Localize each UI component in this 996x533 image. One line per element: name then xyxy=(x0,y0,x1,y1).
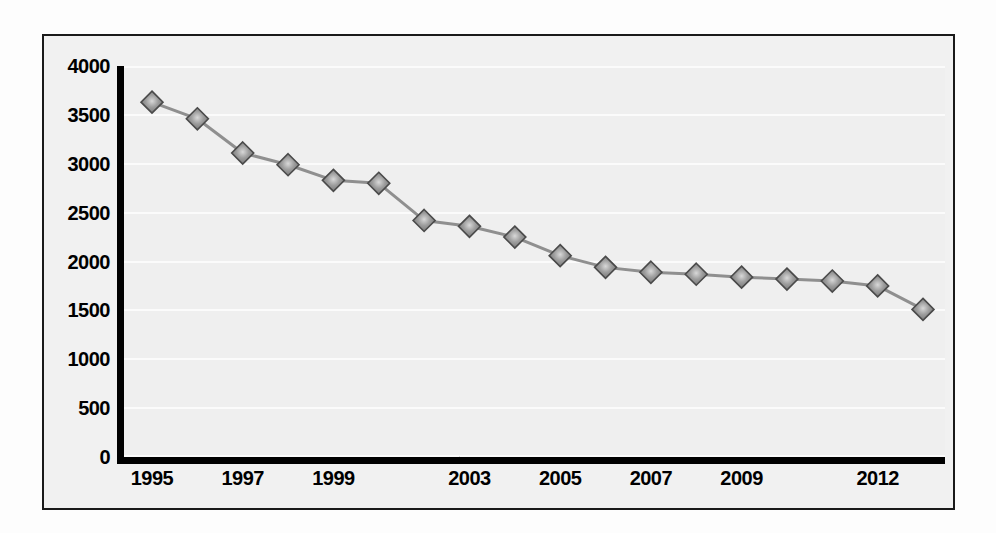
data-point-marker xyxy=(731,266,753,288)
x-axis-tick-label: 1995 xyxy=(131,468,174,488)
data-point-marker xyxy=(549,245,571,267)
screenshot-root: 40003500300025002000150010005000 1995199… xyxy=(0,0,996,533)
data-point-marker xyxy=(867,275,889,297)
data-point-marker xyxy=(912,298,934,320)
y-axis-tick-label: 1000 xyxy=(68,349,111,369)
data-point-marker xyxy=(504,226,526,248)
y-axis-tick-label: 3000 xyxy=(68,154,111,174)
chart-frame: 40003500300025002000150010005000 1995199… xyxy=(42,34,955,510)
data-point-marker xyxy=(186,108,208,130)
data-point-marker xyxy=(776,268,798,290)
line-series xyxy=(124,66,945,457)
data-point-marker xyxy=(685,263,707,285)
x-axis-tick-label: 2005 xyxy=(539,468,582,488)
y-axis-tick-label: 500 xyxy=(78,398,110,418)
data-point-marker xyxy=(640,261,662,283)
data-point-marker xyxy=(141,91,163,113)
data-point-marker xyxy=(595,256,617,278)
y-axis-tick-label: 2000 xyxy=(68,252,111,272)
x-axis-line xyxy=(117,457,945,464)
y-axis-tick-label: 0 xyxy=(99,447,110,467)
y-axis-tick-label: 1500 xyxy=(68,300,111,320)
data-point-marker xyxy=(821,270,843,292)
data-point-marker xyxy=(232,142,254,164)
data-point-marker xyxy=(277,154,299,176)
y-axis-tick-label: 4000 xyxy=(68,56,111,76)
y-axis-tick-labels: 40003500300025002000150010005000 xyxy=(44,36,116,512)
x-axis-tick-label: 2007 xyxy=(630,468,673,488)
data-point-marker xyxy=(322,169,344,191)
y-axis-line xyxy=(117,66,124,464)
scan-artifact-speck xyxy=(454,456,464,457)
x-axis-tick-label: 1999 xyxy=(312,468,355,488)
chart-body: 40003500300025002000150010005000 1995199… xyxy=(44,36,953,508)
y-axis-tick-label: 2500 xyxy=(68,203,111,223)
data-point-marker xyxy=(458,215,480,237)
x-axis-tick-label: 2009 xyxy=(720,468,763,488)
x-axis-tick-label: 2012 xyxy=(856,468,899,488)
series-line xyxy=(152,102,923,309)
plot-area xyxy=(124,66,945,457)
x-axis-tick-label: 2003 xyxy=(448,468,491,488)
y-axis-tick-label: 3500 xyxy=(68,105,111,125)
x-axis-tick-labels: 19951997199920032005200720092012 xyxy=(124,468,945,502)
x-axis-tick-label: 1997 xyxy=(221,468,264,488)
